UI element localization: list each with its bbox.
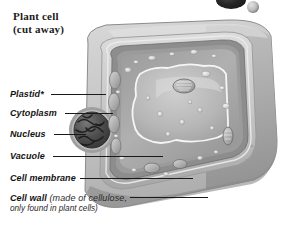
figure-canvas: Plant cell (cut away) bbox=[0, 0, 285, 227]
label-cell-membrane: Cell membrane bbox=[10, 173, 76, 183]
label-cell-wall: Cell wall (made of cellulose, bbox=[10, 193, 127, 203]
label-cell-wall-line2: only found in plant cells) bbox=[10, 204, 98, 213]
dark-blob-artifact-icon bbox=[216, 0, 246, 9]
figure-title-line1: Plant cell bbox=[13, 10, 59, 22]
label-cytoplasm: Cytoplasm bbox=[10, 108, 57, 118]
label-cell-wall-note-bold: cellulose bbox=[88, 193, 124, 203]
label-cell-wall-bold: Cell wall bbox=[10, 193, 47, 203]
label-cell-wall-note-open: (made of bbox=[47, 193, 89, 203]
plastid-striated-right bbox=[223, 127, 233, 145]
leader-plastid bbox=[51, 94, 106, 95]
label-vacuole: Vacuole bbox=[10, 151, 45, 161]
vacuole-region bbox=[132, 64, 228, 143]
gray-sphere-artifact-icon bbox=[247, 1, 259, 13]
leader-cytoplasm bbox=[65, 113, 113, 114]
label-nucleus: Nucleus bbox=[10, 129, 46, 139]
leader-cell-membrane bbox=[80, 178, 193, 179]
plastid-striated bbox=[173, 79, 195, 93]
label-plastid: Plastid* bbox=[10, 89, 44, 99]
leader-cell-wall bbox=[130, 197, 208, 198]
leader-vacuole bbox=[53, 156, 163, 157]
leader-nucleus bbox=[54, 134, 86, 135]
label-cell-wall-note-close: , bbox=[124, 193, 127, 203]
